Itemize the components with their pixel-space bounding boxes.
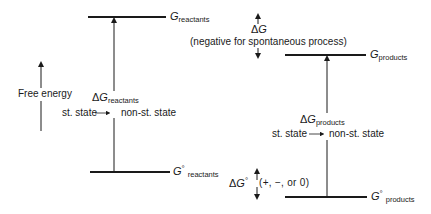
delta-g-std-label: ΔG° [229,176,248,189]
subscript: products [316,118,345,127]
subscript: reactants [188,170,219,179]
g-symbol: G [371,190,380,202]
products-to-state: non-st. state [329,128,384,140]
g-std-reactants-label: G°reactants [173,164,219,179]
subscript: reactants [108,96,139,105]
g-symbol: G [307,113,316,125]
superscript: ° [182,164,185,173]
g-std-products-label: G°products [371,189,415,204]
delta-g-reactants-label: ΔGreactants [92,91,139,105]
g-symbol: G [258,23,267,35]
subscript: reactants [179,15,210,24]
superscript: ° [380,189,383,198]
reactants-to-state: non-st. state [121,107,176,119]
g-symbol: G [99,91,108,103]
delta-g-note: (negative for spontaneous process) [190,36,347,48]
free-energy-label: Free energy [18,88,72,100]
g-symbol: G [370,48,379,60]
g-symbol: G [236,177,245,189]
products-from-state: st. state [272,128,307,140]
g-symbol: G [173,165,182,177]
g-products-label: Gproducts [370,48,407,62]
superscript: ° [245,176,248,185]
delta-g-std-note: (+, −, or 0) [259,177,309,189]
delta-g-label: ΔG [251,23,267,35]
g-reactants-label: Greactants [170,10,209,24]
delta-g-products-label: ΔGproducts [300,113,345,127]
g-symbol: G [170,10,179,22]
subscript: products [386,195,415,204]
reactants-from-state: st. state [62,107,97,119]
subscript: products [379,53,408,62]
